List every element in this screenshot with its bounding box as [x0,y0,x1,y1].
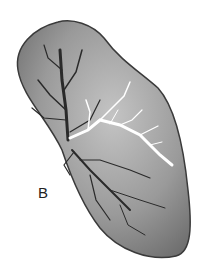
panel-label: B [38,184,48,201]
organ-outline [17,21,190,258]
organ-illustration [0,0,202,271]
organ-drawing [0,0,202,271]
